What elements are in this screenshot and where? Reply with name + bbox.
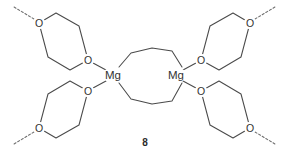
bridge-chain-upper [119, 48, 182, 67]
atom-label-oxygen-top-right-inner: O [197, 54, 205, 66]
atom-label-oxygen-top-left-outer: O [35, 17, 43, 29]
dashed-bond-top-right [255, 7, 275, 19]
coordination-bond-mg-right-bottom [183, 81, 196, 88]
dioxane-ring-top-right [201, 13, 250, 70]
compound-number-label: 8 [142, 137, 148, 148]
dioxane-ring-top-left [39, 13, 88, 70]
coordination-bond-mg-right-top [183, 63, 196, 70]
atom-label-oxygen-bottom-left-outer: O [35, 122, 43, 134]
dioxane-ring-bottom-right [201, 81, 250, 138]
atom-label-oxygen-top-right-outer: O [246, 17, 254, 29]
structure-drawing-canvas: O O O O O O O O Mg Mg 8 [0, 0, 289, 155]
dashed-bond-bottom-right [255, 132, 275, 144]
atom-label-oxygen-top-left-inner: O [84, 54, 92, 66]
coordination-bond-mg-left-bottom [93, 81, 106, 88]
dioxane-ring-bottom-left [39, 81, 88, 138]
bridge-chain-lower [119, 83, 182, 104]
atom-label-magnesium-left: Mg [105, 69, 121, 81]
chemical-structure-figure: O O O O O O O O Mg Mg 8 [0, 0, 289, 155]
atom-label-oxygen-bottom-left-inner: O [84, 85, 92, 97]
atom-label-oxygen-bottom-right-inner: O [197, 85, 205, 97]
atom-label-magnesium-right: Mg [168, 69, 184, 81]
dashed-bond-top-left [14, 7, 34, 19]
atom-label-oxygen-bottom-right-outer: O [246, 122, 254, 134]
dashed-bond-bottom-left [14, 132, 34, 144]
